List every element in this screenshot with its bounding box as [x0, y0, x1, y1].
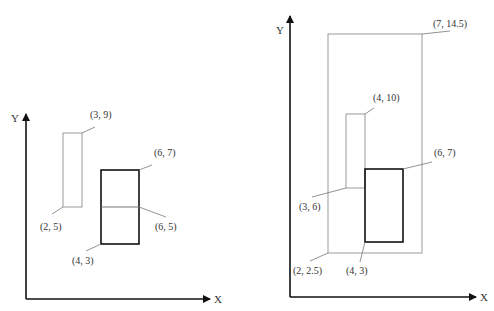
right-x-axis-label: X	[480, 291, 488, 303]
label-6-7: (6, 7)	[154, 147, 176, 159]
right-thick-rect	[365, 169, 403, 242]
leader-line	[403, 162, 432, 169]
leader-line	[86, 244, 101, 251]
label-4-3: (4, 3)	[346, 265, 368, 277]
label-4-10: (4, 10)	[373, 92, 400, 104]
right-thin-rect	[346, 114, 365, 188]
right-y-axis-label: Y	[276, 24, 284, 36]
leader-line	[312, 188, 346, 197]
label-3-6: (3, 6)	[299, 201, 321, 213]
label-2-5: (2, 5)	[40, 221, 62, 233]
leader-line	[365, 108, 374, 114]
left-diagram: Y X (3, 9) (2, 5) (6, 7) (6, 5) (4, 3)	[11, 109, 222, 305]
right-bounding-rect	[328, 34, 422, 253]
label-3-9: (3, 9)	[90, 109, 112, 121]
left-y-axis-label: Y	[11, 112, 19, 124]
label-7-14-5: (7, 14.5)	[433, 18, 467, 30]
leader-line	[422, 31, 450, 34]
left-x-axis-label: X	[214, 293, 222, 305]
label-2-2-5: (2, 2.5)	[293, 265, 322, 277]
label-6-5: (6, 5)	[155, 221, 177, 233]
label-4-3: (4, 3)	[72, 255, 94, 267]
label-6-7: (6, 7)	[434, 147, 456, 159]
leader-line	[82, 127, 95, 133]
right-diagram: Y X (7, 14.5) (4, 10) (6, 7) (3, 6) (2, …	[276, 16, 488, 303]
leader-line	[360, 242, 365, 262]
leader-line	[139, 207, 166, 217]
leader-line	[310, 253, 328, 261]
leader-line	[139, 165, 152, 170]
left-thin-rect	[63, 133, 82, 207]
leader-line	[52, 207, 63, 214]
diagram-canvas: Y X (3, 9) (2, 5) (6, 7) (6, 5) (4, 3) Y…	[0, 0, 494, 311]
